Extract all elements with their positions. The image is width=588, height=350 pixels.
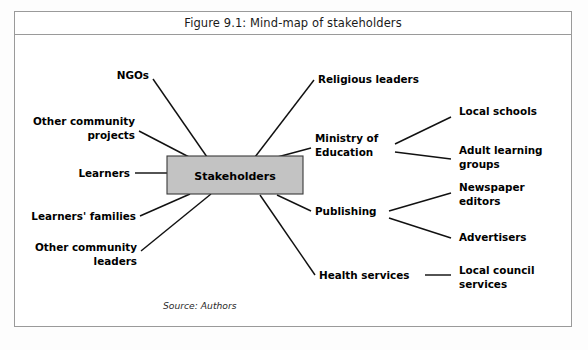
connector-advertisers: [389, 218, 451, 238]
node-label-local-schools: Local schools: [459, 105, 537, 117]
node-label-learners-families: Learners' families: [31, 210, 136, 222]
node-label-ministry-line1: Ministry of: [315, 132, 379, 144]
node-label-local-council-line2: services: [459, 278, 507, 290]
node-label-publishing: Publishing: [315, 205, 377, 217]
node-label-other-community-leaders-line2: leaders: [94, 255, 137, 267]
connector-newspaper-editors: [389, 193, 451, 211]
node-label-adult-learning-line2: groups: [459, 158, 500, 170]
center-node-label: Stakeholders: [194, 170, 276, 183]
node-label-newspaper-line1: Newspaper: [459, 181, 525, 193]
connector-learners-families: [140, 194, 190, 216]
figure-title-bar: Figure 9.1: Mind-map of stakeholders: [15, 12, 571, 35]
secondary-connectors: [389, 117, 451, 275]
connector-health-services: [260, 195, 315, 275]
connector-other-community-projects: [139, 131, 189, 157]
connector-local-schools: [395, 117, 451, 144]
connector-adult-learning-groups: [395, 152, 451, 159]
figure-screenshot: Figure 9.1: Mind-map of stakeholders Sta…: [0, 0, 588, 350]
node-label-other-community-leaders-line1: Other community: [35, 241, 137, 253]
node-label-ministry-line2: Education: [315, 146, 373, 158]
node-label-local-council-line1: Local council: [459, 264, 534, 276]
node-label-other-community-projects-line2: projects: [87, 129, 135, 141]
node-label-other-community-projects-line1: Other community: [33, 115, 135, 127]
node-label-religious-leaders: Religious leaders: [318, 73, 419, 85]
connector-publishing: [277, 195, 311, 211]
connector-other-community-leaders: [141, 194, 211, 251]
node-label-learners: Learners: [78, 167, 130, 179]
node-label-advertisers: Advertisers: [459, 231, 527, 243]
node-label-newspaper-line2: editors: [459, 195, 500, 207]
figure-title: Figure 9.1: Mind-map of stakeholders: [184, 16, 401, 30]
node-label-adult-learning-line1: Adult learning: [459, 144, 543, 156]
node-label-health-services: Health services: [319, 269, 409, 281]
node-label-ngos: NGOs: [117, 69, 149, 81]
connector-religious-leaders: [255, 80, 314, 157]
figure-source-note: Source: Authors: [163, 300, 237, 311]
connector-ngos: [153, 79, 207, 157]
figure-frame: Figure 9.1: Mind-map of stakeholders Sta…: [14, 11, 572, 327]
mindmap-diagram: Stakeholders NGOs Other community projec…: [15, 35, 571, 326]
